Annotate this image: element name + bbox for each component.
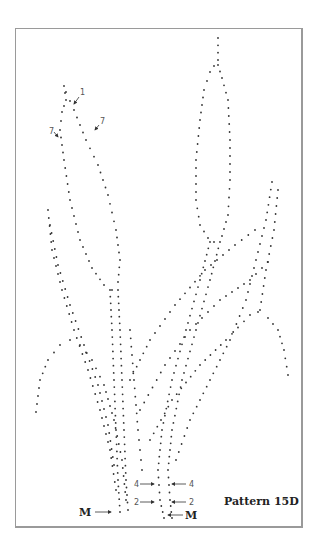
label-7-right: 7 <box>100 117 105 126</box>
label-4-right: 4 <box>189 480 194 489</box>
pattern-title: Pattern 15D <box>224 495 299 508</box>
label-2-right: 2 <box>189 498 194 507</box>
label-1: 1 <box>80 88 85 97</box>
label-2-left: 2 <box>134 498 139 507</box>
label-7-left: 7 <box>49 127 54 136</box>
pricking-dots <box>35 37 289 519</box>
dot-pattern-drawing: 1 7 7 4 4 2 2 M M <box>0 0 319 557</box>
label-4-left: 4 <box>134 480 139 489</box>
label-m-left: M <box>79 506 91 519</box>
label-m-right: M <box>185 509 197 522</box>
